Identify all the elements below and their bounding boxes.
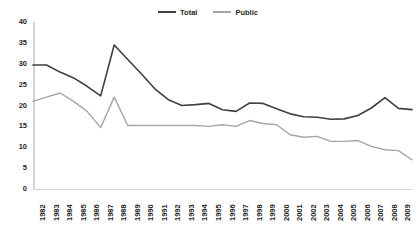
- x-axis-tick-label: 1993: [188, 204, 196, 221]
- x-axis-tick-label: 1997: [242, 204, 250, 221]
- chart-legend: Total Public: [0, 4, 416, 20]
- y-axis-tick-label: 0: [23, 185, 27, 193]
- plot-area: [33, 22, 412, 189]
- legend-line-swatch-total: [158, 11, 176, 13]
- x-axis-tick-label: 2006: [364, 204, 372, 221]
- series-line-total: [33, 45, 412, 119]
- legend-item-total: Total: [158, 8, 197, 17]
- x-axis-tick-label: 1987: [107, 204, 115, 221]
- x-axis-tick-label: 2008: [391, 204, 399, 221]
- x-axis-tick-label: 1990: [147, 204, 155, 221]
- y-axis-tick-label: 35: [19, 39, 27, 47]
- x-axis-tick-label: 1991: [161, 204, 169, 221]
- x-axis-tick-label: 1984: [66, 204, 74, 221]
- x-axis-tick-label: 1985: [80, 204, 88, 221]
- series-canvas: [33, 22, 412, 189]
- x-axis-tick-label: 1989: [134, 204, 142, 221]
- y-axis-tick-label: 30: [19, 60, 27, 68]
- x-axis-tick-label: 2004: [337, 204, 345, 221]
- x-axis-tick-label: 2009: [404, 204, 412, 221]
- legend-label-total: Total: [180, 8, 197, 17]
- y-axis-tick-label: 10: [19, 143, 27, 151]
- x-axis-tick-label: 2001: [296, 204, 304, 221]
- x-axis-tick-label: 2002: [310, 204, 318, 221]
- y-axis-tick-label: 25: [19, 81, 27, 89]
- x-axis-tick-labels: 1982198319841985198619871988198919901991…: [33, 191, 412, 237]
- x-axis-tick-label: 2005: [350, 204, 358, 221]
- y-axis-tick-label: 20: [19, 102, 27, 110]
- x-axis-tick-label: 1995: [215, 204, 223, 221]
- x-axis-tick-label: 1988: [120, 204, 128, 221]
- legend-label-public: Public: [235, 8, 258, 17]
- x-axis-tick-label: 2003: [323, 204, 331, 221]
- legend-item-public: Public: [213, 8, 258, 17]
- x-axis-tick-label: 1986: [93, 204, 101, 221]
- x-axis-tick-label: 1998: [256, 204, 264, 221]
- x-axis-tick-label: 2000: [283, 204, 291, 221]
- series-line-public: [33, 93, 412, 160]
- y-axis-tick-labels: 0510152025303540: [0, 0, 31, 238]
- x-axis-tick-label: 1983: [53, 204, 61, 221]
- y-axis-tick-label: 15: [19, 122, 27, 130]
- x-axis-tick-label: 1996: [229, 204, 237, 221]
- x-axis-tick-label: 1982: [39, 204, 47, 221]
- x-axis-tick-label: 1992: [174, 204, 182, 221]
- legend-line-swatch-public: [213, 11, 231, 13]
- y-axis-tick-label: 5: [23, 164, 27, 172]
- y-axis-tick-label: 40: [19, 18, 27, 26]
- x-axis-tick-label: 1999: [269, 204, 277, 221]
- x-axis-tick-label: 1994: [201, 204, 209, 221]
- line-chart: Total Public 0510152025303540 1982198319…: [0, 0, 416, 238]
- x-axis-tick-label: 2007: [377, 204, 385, 221]
